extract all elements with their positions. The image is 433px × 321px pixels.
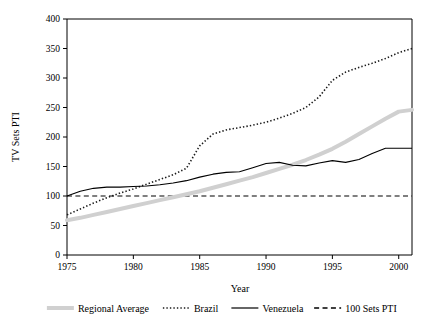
x-tick-label: 1990 [257, 262, 276, 272]
legend-label: Brazil [194, 303, 219, 314]
y-tick-label: 0 [55, 250, 60, 260]
x-tick-label: 1975 [58, 262, 77, 272]
legend-label: Venezuela [262, 303, 304, 314]
legend-label: Regional Average [78, 303, 150, 314]
y-tick-label: 350 [46, 44, 61, 54]
y-tick-label: 150 [46, 162, 61, 172]
x-tick-label: 2000 [389, 262, 408, 272]
legend-label: 100 Sets PTI [345, 303, 397, 314]
tv-sets-line-chart: 050100150200250300350400 197519801985199… [0, 0, 433, 321]
y-tick-label: 400 [46, 14, 61, 24]
y-tick-label: 100 [46, 191, 61, 201]
y-tick-label: 250 [46, 103, 61, 113]
chart-container: 050100150200250300350400 197519801985199… [0, 0, 433, 321]
y-tick-label: 50 [51, 221, 61, 231]
x-tick-label: 1980 [124, 262, 143, 272]
x-tick-label: 1995 [323, 262, 342, 272]
x-tick-label: 1985 [190, 262, 209, 272]
y-axis-title: TV Sets PTI [10, 112, 21, 162]
x-axis-title: Year [231, 283, 250, 294]
y-tick-label: 300 [46, 73, 61, 83]
y-tick-label: 200 [46, 132, 61, 142]
